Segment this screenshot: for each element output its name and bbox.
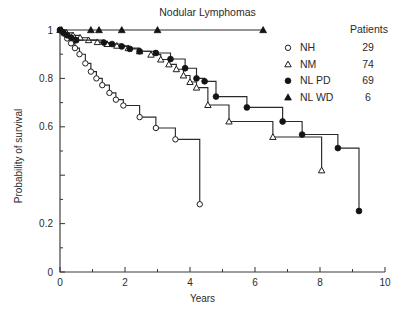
series-marker-nl-pd <box>168 56 174 62</box>
legend-header-patients: Patients <box>350 23 388 35</box>
series-marker-nh <box>197 202 202 207</box>
series-marker-nl-pd <box>356 208 362 214</box>
legend-label-nl-pd: NL PD <box>300 74 331 86</box>
series-marker-nm <box>318 167 324 173</box>
series-marker-nh <box>68 41 73 46</box>
legend-label-nl-wd: NL WD <box>300 91 334 103</box>
series-step-line-nm <box>60 30 322 170</box>
series-marker-nl-pd <box>335 145 341 151</box>
series-marker-nh <box>113 97 118 102</box>
x-tick-label: 6 <box>252 277 258 288</box>
series-marker-nl-pd <box>101 40 107 46</box>
series-marker-nh <box>77 52 82 57</box>
y-tick-label: 0 <box>47 267 53 278</box>
series-marker-nh <box>100 82 105 87</box>
legend-marker-nl-wd <box>285 94 292 100</box>
series-marker-nh <box>72 45 77 50</box>
legend-count-nh: 29 <box>362 41 374 53</box>
series-marker-nl-pd <box>182 65 188 71</box>
series-marker-nl-pd <box>213 94 219 100</box>
x-tick-label: 2 <box>122 277 128 288</box>
series-marker-nl-pd <box>137 48 143 54</box>
y-tick-label: 1 <box>47 25 53 36</box>
series-marker-nl-pd <box>153 50 159 56</box>
y-tick-label: 0.8 <box>39 73 53 84</box>
y-tick-label: 0.2 <box>39 218 53 229</box>
legend-count-nm: 74 <box>362 58 374 70</box>
series-marker-nl-pd <box>280 119 286 125</box>
series-marker-nh <box>88 69 93 74</box>
x-tick-label: 4 <box>187 277 193 288</box>
series-marker-nh <box>83 61 88 66</box>
series-marker-nh <box>121 103 126 108</box>
legend-marker-nm <box>285 61 291 67</box>
y-axis-label: Probability of survival <box>13 109 24 203</box>
series-marker-nh <box>173 137 178 142</box>
series-marker-nl-pd <box>119 44 125 50</box>
legend-marker-nh <box>285 45 290 50</box>
x-tick-label: 8 <box>317 277 323 288</box>
legend-count-nl-wd: 6 <box>365 91 371 103</box>
series-marker-nl-pd <box>244 105 250 111</box>
series-marker-nl-pd <box>299 132 305 138</box>
chart-title: Nodular Lymphomas <box>159 6 256 18</box>
legend-marker-nl-pd <box>285 78 291 84</box>
series-marker-nh <box>153 125 158 130</box>
chart-figure: Nodular Lymphomas024681000.20.60.81Years… <box>0 0 410 321</box>
legend-label-nm: NM <box>300 58 316 70</box>
series-marker-nl-pd <box>194 76 200 82</box>
x-axis-label: Years <box>190 293 215 304</box>
legend-count-nl-pd: 69 <box>362 74 374 86</box>
y-tick-label: 0.6 <box>39 121 53 132</box>
series-marker-nl-pd <box>202 78 208 84</box>
x-tick-label: 0 <box>57 277 63 288</box>
series-marker-nl-pd <box>127 46 133 52</box>
series-marker-nh <box>107 90 112 95</box>
series-marker-nl-pd <box>73 37 79 43</box>
legend-label-nh: NH <box>300 41 315 53</box>
series-marker-nl-pd <box>109 41 115 47</box>
survival-curve-plot: Nodular Lymphomas024681000.20.60.81Years… <box>0 0 410 321</box>
series-marker-nh <box>137 114 142 119</box>
series-marker-nh <box>94 76 99 81</box>
x-tick-label: 10 <box>379 277 391 288</box>
